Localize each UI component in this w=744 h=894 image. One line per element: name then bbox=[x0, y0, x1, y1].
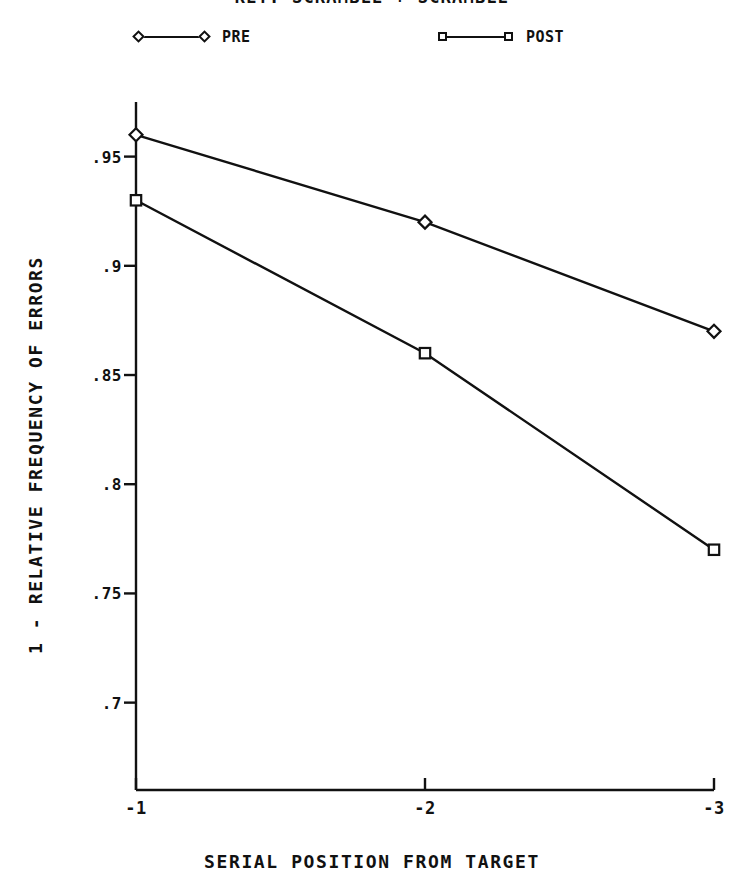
y-axis-title: 1 - RELATIVE FREQUENCY OF ERRORS bbox=[25, 256, 46, 654]
x-axis-title: SERIAL POSITION FROM TARGET bbox=[0, 851, 744, 872]
x-axis-tick-labels: -1-2-3 bbox=[0, 0, 744, 894]
x-tick-label: -1 bbox=[106, 798, 166, 818]
x-tick-label: -3 bbox=[684, 798, 744, 818]
x-tick-label: -2 bbox=[395, 798, 455, 818]
plot-area: .95.9.85.8.75.7 -1-2-3 bbox=[0, 0, 744, 894]
y-axis-title-wrapper: 1 - RELATIVE FREQUENCY OF ERRORS bbox=[25, 75, 55, 835]
